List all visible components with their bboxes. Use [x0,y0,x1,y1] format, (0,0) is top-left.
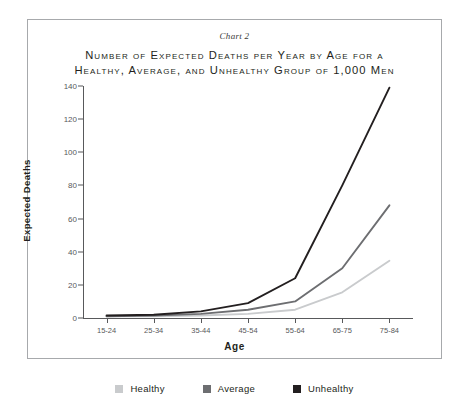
y-axis-line [83,86,84,318]
x-tick-label: 65-75 [333,326,352,335]
x-tick-mark [248,318,249,323]
legend-item-unhealthy[interactable]: Unhealthy [293,383,353,394]
series-line-unhealthy [107,88,390,316]
chart-number-label: Chart 2 [0,31,469,41]
plot-area: 020406080100120140 15-2425-3435-4445-545… [83,86,413,318]
chart-title-line-1: Number of Expected Deaths per Year by Ag… [34,48,435,63]
x-axis-title: Age [0,341,469,352]
y-tick-mark [78,86,83,87]
chart-legend: HealthyAverageUnhealthy [0,383,469,394]
y-tick-mark [78,185,83,186]
y-tick-label: 20 [68,280,77,289]
x-tick-label: 75-84 [380,326,399,335]
y-tick-mark [78,284,83,285]
x-tick-mark [107,318,108,323]
y-tick-mark [78,251,83,252]
x-tick-mark [389,318,390,323]
legend-swatch-icon [115,385,123,393]
y-axis-title: Expected Deaths [21,146,32,256]
y-tick-label: 100 [64,148,77,157]
legend-item-healthy[interactable]: Healthy [115,383,164,394]
x-tick-label: 35-44 [191,326,210,335]
legend-swatch-icon [293,385,301,393]
chart-title-line-2: Healthy, Average, and Unhealthy Group of… [34,63,435,78]
y-tick-mark [78,119,83,120]
series-line-average [107,205,390,316]
x-tick-label: 25-34 [144,326,163,335]
x-tick-mark [201,318,202,323]
legend-item-label: Average [218,383,255,394]
y-tick-mark [78,152,83,153]
legend-item-label: Unhealthy [308,383,353,394]
y-tick-label: 60 [68,214,77,223]
y-tick-label: 0 [73,314,77,323]
legend-item-average[interactable]: Average [203,383,255,394]
y-tick-label: 140 [64,82,77,91]
x-tick-label: 55-64 [286,326,305,335]
y-tick-label: 120 [64,115,77,124]
series-line-healthy [107,261,390,317]
y-tick-mark [78,218,83,219]
x-tick-mark [295,318,296,323]
y-tick-label: 80 [68,181,77,190]
legend-item-label: Healthy [130,383,164,394]
chart-title: Number of Expected Deaths per Year by Ag… [34,48,435,78]
x-tick-label: 45-54 [238,326,257,335]
legend-swatch-icon [203,385,211,393]
y-tick-label: 40 [68,247,77,256]
series-lines-svg [83,86,413,318]
x-tick-label: 15-24 [97,326,116,335]
chart-figure: Chart 2 Number of Expected Deaths per Ye… [0,0,469,419]
x-tick-mark [342,318,343,323]
x-tick-mark [154,318,155,323]
